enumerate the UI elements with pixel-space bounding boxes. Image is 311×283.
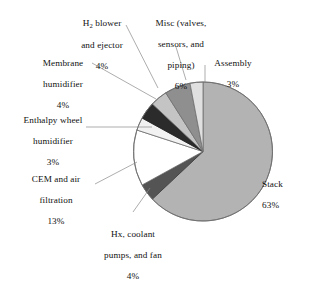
pie-label-cem-line2: filtration bbox=[39, 195, 72, 205]
pie-label-stack-line1: Stack bbox=[262, 179, 283, 189]
pie-label-assembly-line1: Assembly bbox=[214, 58, 252, 68]
pie-label-hx-line1: Hx, coolant bbox=[111, 229, 155, 239]
pie-label-stack-pct: 63% bbox=[262, 200, 308, 211]
pie-label-stack: Stack 63% bbox=[262, 168, 308, 221]
leader-line-cem bbox=[95, 162, 137, 184]
pie-label-membrane-line1: Membrane bbox=[43, 58, 84, 68]
pie-label-assembly: Assembly 3% bbox=[197, 47, 269, 100]
pie-label-enthalpy-line2: humidifier bbox=[33, 136, 73, 146]
pie-label-h2-line1: H2 blower bbox=[83, 18, 122, 28]
pie-label-enthalpy-line1: Enthalpy wheel bbox=[24, 115, 83, 125]
pie-label-hx-coolant-pumps-fan: Hx, coolant pumps, and fan 4% bbox=[85, 218, 181, 283]
pie-label-cem-line1: CEM and air bbox=[32, 174, 81, 184]
pie-slices bbox=[133, 82, 272, 221]
pie-label-hx-line2: pumps, and fan bbox=[104, 250, 162, 260]
pie-label-membrane-line2: humidifier bbox=[43, 79, 83, 89]
pie-label-misc-line1: Misc (valves, bbox=[156, 18, 207, 28]
pie-label-hx-pct: 4% bbox=[85, 271, 181, 282]
subscript-2: 2 bbox=[89, 22, 92, 29]
pie-label-assembly-pct: 3% bbox=[197, 79, 269, 90]
pie-label-misc-line3: piping) bbox=[167, 60, 194, 70]
leader-line-hx bbox=[133, 188, 150, 212]
